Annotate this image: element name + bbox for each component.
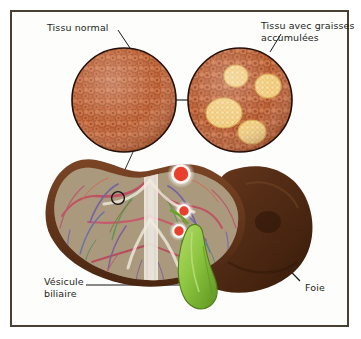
label-fatty-tissue: Tissu avec graisses accumulées [261, 20, 355, 43]
figure-root: Tissu normal Tissu avec graisses accumul… [0, 0, 361, 339]
tissue-circle-fatty [188, 48, 292, 152]
label-liver: Foie [305, 282, 325, 294]
label-normal-tissue: Tissu normal [47, 22, 109, 34]
label-gallbladder: Vésicule biliaire [44, 276, 84, 299]
hepatic-vein-section [173, 166, 190, 183]
tissue-circle-normal [72, 48, 176, 152]
liver-organ [46, 159, 313, 309]
hepatic-artery-section [173, 225, 185, 237]
